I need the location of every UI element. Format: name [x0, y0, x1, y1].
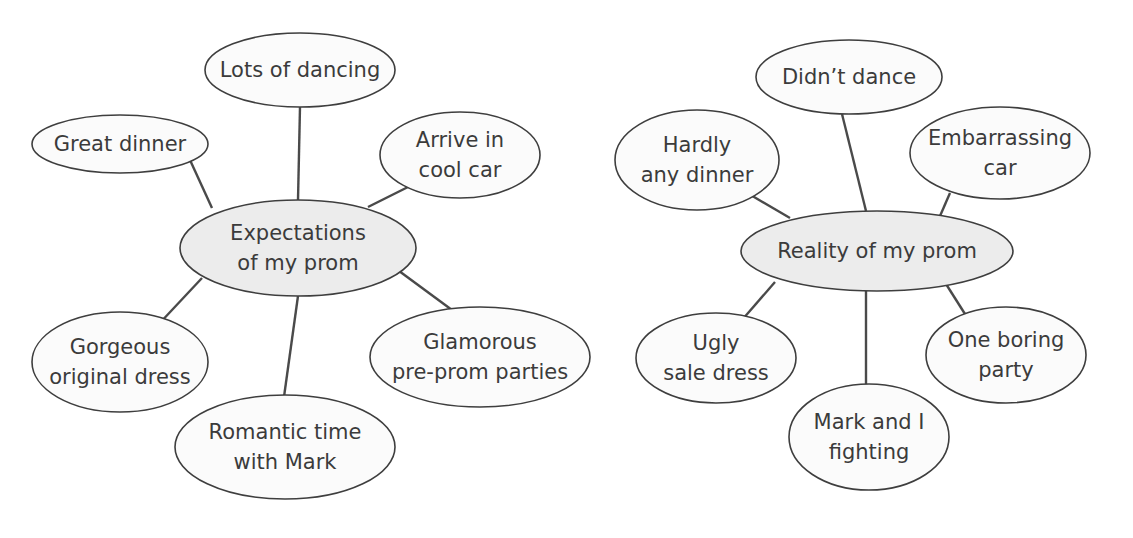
bubble-label: Lots of dancing — [220, 58, 380, 82]
bubble-label: fighting — [829, 440, 910, 464]
bubbles: Expectationsof my promLots of dancingGre… — [32, 33, 1090, 499]
central-topic-expectations-of-my-prom: Expectationsof my prom — [180, 200, 416, 296]
bubble-label: Gorgeous — [70, 335, 171, 359]
bubble-label: Glamorous — [423, 330, 537, 354]
topic-node-gorgeous-original-dress: Gorgeousoriginal dress — [32, 312, 208, 412]
bubble-label: of my prom — [237, 251, 358, 275]
topic-node-great-dinner: Great dinner — [32, 115, 208, 173]
topic-node-lots-of-dancing: Lots of dancing — [205, 33, 395, 107]
connector-line — [749, 194, 790, 218]
bubble-label: Didn’t dance — [782, 65, 916, 89]
topic-node-didn-t-dance: Didn’t dance — [756, 40, 942, 114]
connector-line — [940, 193, 950, 216]
bubble-label: car — [983, 156, 1016, 180]
bubble-label: Mark and I — [814, 410, 925, 434]
bubble-label: Romantic time — [209, 420, 362, 444]
central-bubble — [180, 200, 416, 296]
connector-line — [283, 296, 298, 404]
bubble-label: Great dinner — [54, 132, 187, 156]
bubble-label: Arrive in — [416, 128, 504, 152]
mind-maps: Expectationsof my promLots of dancingGre… — [0, 0, 1133, 538]
connector-line — [395, 268, 452, 310]
topic-node-hardly-any-dinner: Hardlyany dinner — [615, 110, 779, 210]
bubble-label: cool car — [419, 158, 502, 182]
node-bubble — [175, 395, 395, 499]
bubble-label: Hardly — [663, 133, 732, 157]
bubble-label: Expectations — [230, 221, 366, 245]
topic-node-one-boring-party: One boringparty — [926, 307, 1086, 403]
connector-line — [742, 282, 775, 320]
node-bubble — [926, 307, 1086, 403]
bubble-label: Embarrassing — [928, 126, 1072, 150]
node-bubble — [636, 313, 796, 403]
bubble-label: Ugly — [693, 331, 740, 355]
connector-line — [842, 114, 866, 211]
bubble-label: sale dress — [663, 361, 769, 385]
bubble-label: party — [978, 358, 1034, 382]
connector-line — [298, 107, 300, 200]
bubble-label: any dinner — [641, 163, 754, 187]
connector-line — [190, 160, 212, 208]
topic-node-glamorous-pre-prom-parties: Glamorouspre-prom parties — [370, 307, 590, 407]
diagram-canvas: Expectationsof my promLots of dancingGre… — [0, 0, 1133, 538]
node-bubble — [380, 112, 540, 198]
node-bubble — [789, 384, 949, 490]
topic-node-ugly-sale-dress: Uglysale dress — [636, 313, 796, 403]
bubble-label: One boring — [948, 328, 1065, 352]
node-bubble — [370, 307, 590, 407]
topic-node-arrive-in-cool-car: Arrive incool car — [380, 112, 540, 198]
central-topic-reality-of-my-prom: Reality of my prom — [741, 211, 1013, 291]
node-bubble — [910, 107, 1090, 199]
topic-node-romantic-time-with-mark: Romantic timewith Mark — [175, 395, 395, 499]
connector-line — [946, 284, 965, 314]
node-bubble — [615, 110, 779, 210]
bubble-label: pre-prom parties — [392, 360, 568, 384]
topic-node-embarrassing-car: Embarrassingcar — [910, 107, 1090, 199]
bubble-label: with Mark — [233, 450, 337, 474]
node-bubble — [32, 312, 208, 412]
bubble-label: Reality of my prom — [777, 239, 977, 263]
bubble-label: original dress — [49, 365, 190, 389]
topic-node-mark-and-i-fighting: Mark and Ifighting — [789, 384, 949, 490]
